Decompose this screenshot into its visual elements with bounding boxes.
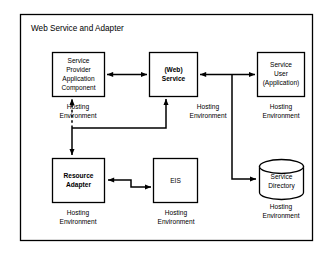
node-web-service[interactable]: [150, 53, 198, 97]
env-line: Environment: [42, 111, 114, 120]
env-line: Hosting: [42, 102, 114, 111]
node-service-user-application[interactable]: [258, 53, 305, 97]
env-line: Hosting: [245, 202, 317, 211]
env-label-eis: Hosting Environment: [140, 208, 212, 226]
env-line: Environment: [42, 217, 114, 226]
env-label-resource-adapter: Hosting Environment: [42, 208, 114, 226]
env-line: Environment: [140, 217, 212, 226]
env-line: Hosting: [42, 208, 114, 217]
env-label-web-service: Hosting Environment: [172, 102, 244, 120]
node-eis[interactable]: [154, 159, 198, 203]
env-line: Hosting: [140, 208, 212, 217]
diagram-title: Web Service and Adapter: [31, 24, 124, 33]
env-line: Hosting: [172, 102, 244, 111]
env-label-service-directory: Hosting Environment: [245, 202, 317, 220]
env-label-service-provider-application-component: Hosting Environment: [42, 102, 114, 120]
diagram-root: Web Service and Adapter Service Provider…: [0, 0, 335, 255]
env-line: Environment: [245, 211, 317, 220]
env-label-service-user-application: Hosting Environment: [245, 102, 317, 120]
node-resource-adapter[interactable]: [53, 159, 105, 203]
env-line: Environment: [172, 111, 244, 120]
node-service-directory[interactable]: [260, 160, 304, 200]
env-line: Hosting: [245, 102, 317, 111]
env-line: Environment: [245, 111, 317, 120]
node-service-provider-application-component[interactable]: [53, 53, 105, 97]
